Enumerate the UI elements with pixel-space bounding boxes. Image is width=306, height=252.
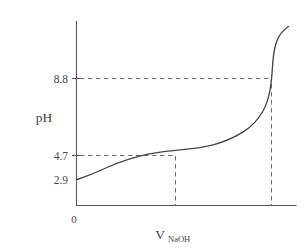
ytick-label-8-8: 8.8 bbox=[54, 73, 69, 85]
titration-curve-line bbox=[78, 27, 289, 180]
x-axis-title: V bbox=[155, 227, 165, 242]
titration-curve-figure: 8.8 4.7 2.9 pH 0 V NaOH bbox=[0, 0, 306, 252]
chart-axes bbox=[77, 22, 297, 206]
origin-label: 0 bbox=[71, 213, 77, 225]
ytick-label-2-9: 2.9 bbox=[54, 174, 69, 186]
chart-svg: 8.8 4.7 2.9 pH 0 V NaOH bbox=[0, 0, 306, 252]
x-axis-title-subscript: NaOH bbox=[168, 234, 190, 244]
y-axis-title: pH bbox=[36, 110, 53, 125]
ytick-label-4-7: 4.7 bbox=[54, 150, 69, 162]
